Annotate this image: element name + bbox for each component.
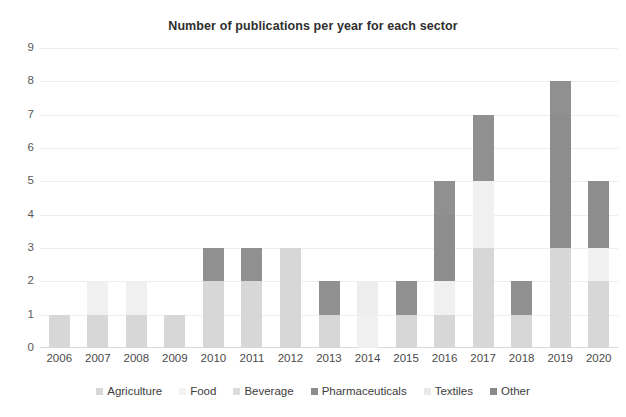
bar-stack[interactable] [164,315,185,348]
bar-segment[interactable] [473,115,494,182]
bar-segment[interactable] [87,281,108,314]
legend-item[interactable]: Other [490,386,530,398]
x-axis-tick-label: 2020 [579,353,618,365]
x-axis-tick-label: 2011 [233,353,272,365]
x-axis-tick-label: 2008 [117,353,156,365]
y-axis-tick-label: 8 [8,75,34,87]
gridline [40,181,618,182]
x-axis-tick-label: 2013 [310,353,349,365]
legend-item-label: Beverage [244,386,293,398]
bar-stack[interactable] [241,248,262,348]
gridline [40,81,618,82]
legend-item[interactable]: Textiles [424,386,473,398]
x-axis-tick-label: 2016 [425,353,464,365]
bar-segment[interactable] [49,315,70,348]
x-axis-tick-label: 2006 [40,353,79,365]
bar-segment[interactable] [434,315,455,348]
bar-stack[interactable] [357,281,378,348]
bar-stack[interactable] [319,281,340,348]
bar-segment[interactable] [473,248,494,348]
legend-item-label: Textiles [435,386,473,398]
chart-canvas: 0123456789 20062007200820092010201120122… [0,0,626,417]
x-axis-tick-label: 2017 [464,353,503,365]
x-axis-tick-label: 2010 [194,353,233,365]
gridline [40,248,618,249]
bar-segment[interactable] [434,215,455,282]
y-axis-tick-label: 1 [8,309,34,321]
bar-segment[interactable] [473,181,494,248]
bar-stack[interactable] [588,181,609,348]
bar-segment[interactable] [550,81,571,114]
gridline [40,115,618,116]
y-axis-tick-label: 0 [8,342,34,354]
bar-segment[interactable] [280,248,301,348]
bar-segment[interactable] [357,315,378,348]
bar-segment[interactable] [164,315,185,348]
bar-stack[interactable] [49,315,70,348]
bar-segment[interactable] [319,315,340,348]
legend-item-label: Other [501,386,530,398]
y-axis-tick-label: 6 [8,142,34,154]
bar-stack[interactable] [203,248,224,348]
bar-segment[interactable] [588,281,609,348]
bar-segment[interactable] [434,281,455,314]
legend-swatch-icon [233,388,240,395]
legend-item[interactable]: Beverage [233,386,293,398]
plot-area [40,48,618,348]
legend-swatch-icon [311,388,318,395]
bar-segment[interactable] [550,115,571,248]
x-axis-tick-label: 2007 [79,353,118,365]
gridline [40,48,618,49]
x-axis-tick-label: 2018 [502,353,541,365]
y-axis-tick-label: 4 [8,209,34,221]
bar-segment[interactable] [241,281,262,348]
legend-item[interactable]: Pharmaceuticals [311,386,407,398]
bar-stack[interactable] [434,181,455,348]
bar-segment[interactable] [203,281,224,348]
x-axis-tick-label: 2014 [348,353,387,365]
bar-segment[interactable] [588,248,609,281]
bar-stack[interactable] [396,281,417,348]
bar-segment[interactable] [126,281,147,314]
bar-segment[interactable] [319,281,340,314]
legend-swatch-icon [96,388,103,395]
bar-stack[interactable] [473,115,494,348]
x-axis-tick-label: 2009 [156,353,195,365]
x-axis-tick-label: 2015 [387,353,426,365]
bar-stack[interactable] [87,281,108,348]
bar-segment[interactable] [511,315,532,348]
legend-item-label: Food [190,386,216,398]
bar-segment[interactable] [203,248,224,281]
legend-item-label: Agriculture [107,386,162,398]
bar-stack[interactable] [550,81,571,348]
bar-stack[interactable] [280,248,301,348]
bar-segment[interactable] [126,315,147,348]
bar-segment[interactable] [241,248,262,281]
legend-item[interactable]: Agriculture [96,386,162,398]
bar-stack[interactable] [126,281,147,348]
bar-stack[interactable] [511,281,532,348]
legend-item[interactable]: Food [179,386,216,398]
y-axis-tick-label: 5 [8,175,34,187]
y-axis-tick-label: 7 [8,109,34,121]
bar-segment[interactable] [550,248,571,348]
y-axis-tick-label: 3 [8,242,34,254]
x-axis-tick-label: 2012 [271,353,310,365]
x-axis-tick-label: 2019 [541,353,580,365]
bar-segment[interactable] [357,281,378,314]
bar-segment[interactable] [87,315,108,348]
gridline [40,148,618,149]
bar-segment[interactable] [396,315,417,348]
y-axis-tick-label: 9 [8,42,34,54]
legend-item-label: Pharmaceuticals [322,386,407,398]
legend-swatch-icon [424,388,431,395]
bar-segment[interactable] [588,181,609,248]
legend-swatch-icon [490,388,497,395]
chart-legend: AgricultureFoodBeveragePharmaceuticalsTe… [0,386,626,398]
bar-segment[interactable] [511,281,532,314]
legend-swatch-icon [179,388,186,395]
bar-segment[interactable] [396,281,417,314]
y-axis-tick-label: 2 [8,275,34,287]
bar-segment[interactable] [434,181,455,214]
gridline [40,215,618,216]
